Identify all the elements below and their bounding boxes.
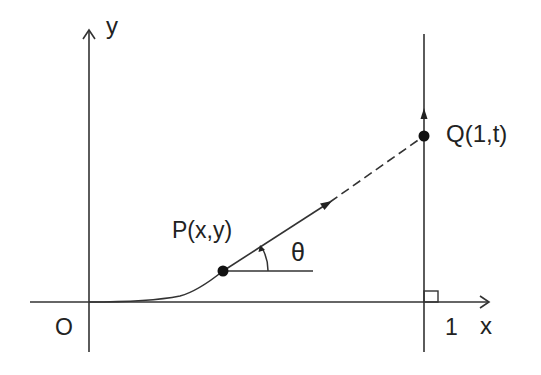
point-p-label: P(x,y) xyxy=(172,219,232,242)
tangent-arrow-icon xyxy=(320,201,332,210)
point-p-dot xyxy=(218,266,229,277)
y-axis-label: y xyxy=(106,14,118,38)
angle-label: θ xyxy=(291,240,305,265)
point-q-label: Q(1,t) xyxy=(446,122,507,146)
pursuit-curve-diagram xyxy=(0,0,541,375)
vertical-line-arrow-icon xyxy=(421,108,428,119)
y-axis xyxy=(83,30,95,352)
point-q-dot xyxy=(419,131,430,142)
origin-label: O xyxy=(55,316,73,339)
tangent-line xyxy=(223,202,330,271)
angle-arc xyxy=(262,248,268,271)
x-axis-label: x xyxy=(480,314,492,338)
tangent-dashed-line xyxy=(330,136,424,202)
pursuit-curve xyxy=(89,271,223,302)
right-angle-marker xyxy=(424,291,438,302)
x-tick-label: 1 xyxy=(445,316,458,339)
